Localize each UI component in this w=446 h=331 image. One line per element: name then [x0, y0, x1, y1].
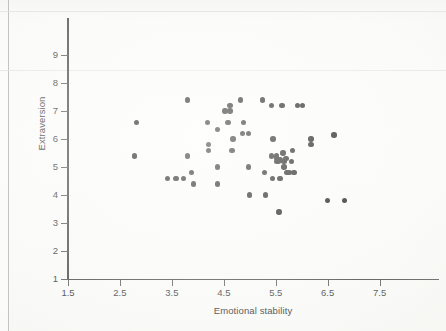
y-axis-tick-label: 4: [42, 190, 58, 200]
y-axis-tick-mark: [61, 223, 68, 224]
scatter-point: [181, 176, 186, 181]
x-axis-tick-mark: [120, 280, 121, 286]
y-axis-tick-mark: [61, 167, 68, 168]
x-axis-tick-label: 4.5: [209, 288, 239, 298]
x-axis-tick-mark: [276, 280, 277, 286]
y-axis-tick-mark: [61, 195, 68, 196]
scatter-plot-figure: 123456789 1.52.53.54.55.56.57.5 Extraver…: [0, 0, 446, 331]
x-axis-tick-mark: [380, 280, 381, 286]
y-axis-tick-mark: [61, 251, 68, 252]
x-axis-tick-label: 5.5: [261, 288, 291, 298]
scatter-point: [215, 181, 220, 186]
scatter-point: [279, 103, 284, 108]
scatter-point: [185, 153, 190, 158]
x-axis-tick-label: 1.5: [53, 288, 83, 298]
y-axis-title: Extraversion: [36, 79, 47, 169]
x-axis-tick-mark: [172, 280, 173, 286]
scatter-point: [227, 103, 232, 108]
scatter-point: [280, 150, 285, 155]
scatter-point: [238, 97, 243, 102]
x-axis-tick-mark: [224, 280, 225, 286]
scatter-point: [270, 136, 275, 141]
plot-data-area: [68, 20, 438, 279]
scatter-point: [173, 176, 178, 181]
x-axis-tick-label: 2.5: [105, 288, 135, 298]
scatter-point: [281, 164, 286, 169]
scatter-point: [230, 136, 235, 141]
scatter-point: [225, 120, 230, 125]
y-axis-tick-mark: [61, 111, 68, 112]
scatter-point: [263, 192, 268, 197]
y-axis-tick-label: 9: [42, 50, 58, 60]
y-axis-tick-mark: [61, 55, 68, 56]
x-axis-tick-mark: [68, 280, 69, 286]
scatter-point: [191, 181, 196, 186]
scatter-point: [205, 120, 210, 125]
scatter-point: [276, 209, 281, 214]
y-axis-tick-mark: [61, 139, 68, 140]
y-axis-tick-label: 3: [42, 218, 58, 228]
y-axis-tick-mark: [61, 279, 68, 280]
x-axis-title: Emotional stability: [68, 305, 438, 316]
scatter-point: [277, 176, 282, 181]
y-axis-tick-label: 2: [42, 246, 58, 256]
scatter-point: [206, 148, 211, 153]
y-axis-tick-label: 1: [42, 274, 58, 284]
x-axis-tick-label: 7.5: [365, 288, 395, 298]
scatter-point: [132, 153, 137, 158]
y-axis-tick-mark: [61, 83, 68, 84]
scatter-point: [308, 136, 313, 141]
scatter-point: [185, 97, 190, 102]
scatter-point: [227, 108, 232, 113]
scatter-point: [215, 164, 220, 169]
x-axis-tick-mark: [328, 280, 329, 286]
x-axis-tick-label: 6.5: [313, 288, 343, 298]
scatter-point: [290, 148, 295, 153]
x-axis-tick-label: 3.5: [157, 288, 187, 298]
scatter-point: [229, 148, 234, 153]
scatter-point: [331, 132, 336, 137]
